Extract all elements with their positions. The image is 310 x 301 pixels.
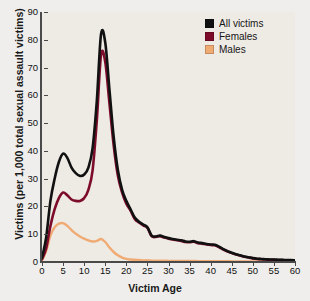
series-line-males bbox=[42, 223, 295, 262]
x-tick-mark bbox=[105, 263, 106, 266]
y-tick-label: 0 bbox=[12, 257, 38, 266]
x-tick-mark bbox=[253, 263, 254, 266]
x-tick-mark bbox=[232, 263, 233, 266]
x-tick-mark bbox=[190, 263, 191, 266]
y-tick-mark bbox=[44, 179, 48, 180]
x-tick-mark bbox=[295, 263, 296, 266]
x-tick-mark bbox=[274, 263, 275, 266]
y-tick-mark bbox=[44, 12, 48, 13]
y-tick-mark bbox=[44, 234, 48, 235]
x-tick-mark bbox=[126, 263, 127, 266]
y-tick-mark bbox=[44, 68, 48, 69]
y-axis-title: Victims (per 1,000 total sexual assault … bbox=[13, 0, 25, 249]
legend-swatch-icon bbox=[205, 32, 214, 41]
x-tick-mark bbox=[63, 263, 64, 266]
legend-label: All victims bbox=[219, 18, 263, 29]
chart-legend: All victimsFemalesMales bbox=[205, 17, 263, 56]
y-axis-line bbox=[40, 12, 42, 263]
legend-item[interactable]: All victims bbox=[205, 17, 263, 29]
legend-label: Males bbox=[219, 44, 246, 55]
legend-label: Females bbox=[219, 31, 257, 42]
x-tick-mark bbox=[147, 263, 148, 266]
legend-item[interactable]: Females bbox=[205, 30, 263, 42]
x-tick-mark bbox=[84, 263, 85, 266]
x-tick-mark bbox=[211, 263, 212, 266]
y-tick-mark bbox=[44, 95, 48, 96]
chart-figure: 0102030405060708090 05101520253035404550… bbox=[0, 0, 310, 301]
x-tick-mark bbox=[169, 263, 170, 266]
legend-swatch-icon bbox=[205, 45, 214, 54]
y-tick-mark bbox=[44, 123, 48, 124]
series-line-all-victims bbox=[42, 30, 295, 260]
series-line-females bbox=[42, 51, 295, 261]
y-tick-mark bbox=[44, 262, 48, 263]
x-tick-mark bbox=[42, 263, 43, 266]
y-tick-mark bbox=[44, 151, 48, 152]
y-tick-mark bbox=[44, 206, 48, 207]
legend-item[interactable]: Males bbox=[205, 43, 263, 55]
y-tick-mark bbox=[44, 40, 48, 41]
x-axis-title: Victim Age bbox=[0, 282, 310, 294]
legend-swatch-icon bbox=[205, 19, 214, 28]
x-axis-ticks: 051015202530354045505560 bbox=[0, 266, 310, 282]
x-tick-label: 60 bbox=[283, 266, 307, 276]
